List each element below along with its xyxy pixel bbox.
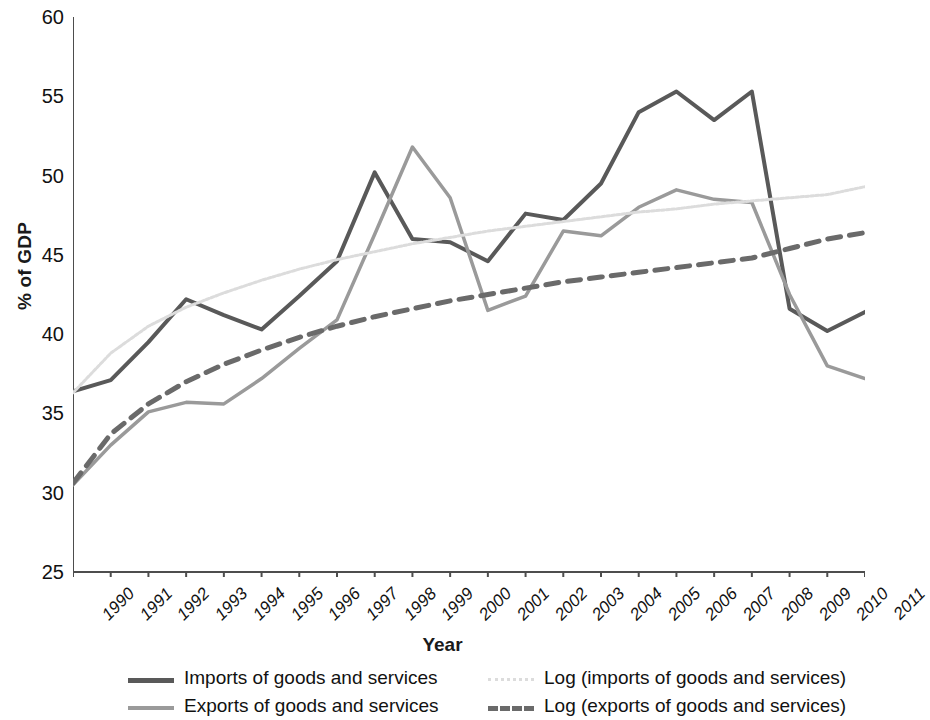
legend-entry-logimports[interactable]: Log (imports of goods and services) xyxy=(488,668,885,688)
series-line-2 xyxy=(73,187,865,393)
x-axis-title: Year xyxy=(0,634,885,656)
x-axis-tick-label: 2004 xyxy=(626,584,667,625)
y-axis-tick-label: 25 xyxy=(20,562,64,582)
x-axis-tick-label: 2008 xyxy=(777,584,818,625)
x-axis-tick-label: 1992 xyxy=(174,584,215,625)
x-axis-tick-label: 1998 xyxy=(400,584,441,625)
legend-label: Imports of goods and services xyxy=(184,668,437,688)
y-axis-tick-labels: 6055504540353025 xyxy=(12,0,64,720)
legend-swatch-imports-icon xyxy=(128,671,174,685)
x-axis-tick-label: 1995 xyxy=(287,584,328,625)
x-axis-tick-label: 2007 xyxy=(739,584,780,625)
y-axis-tick-label: 50 xyxy=(20,166,64,186)
legend-swatch-logimports-icon xyxy=(488,671,534,685)
legend-label: Exports of goods and services xyxy=(184,696,439,716)
x-axis-tick-label: 2009 xyxy=(815,584,856,625)
x-axis-tick-label: 2000 xyxy=(475,584,516,625)
legend-swatch-logexports-icon xyxy=(488,699,534,713)
chart-legend: Imports of goods and servicesLog (import… xyxy=(128,664,885,720)
series-line-0 xyxy=(73,92,865,392)
x-axis-tick-label: 1990 xyxy=(98,584,139,625)
y-axis-tick-label: 40 xyxy=(20,324,64,344)
x-axis-tick-label: 1997 xyxy=(362,584,403,625)
legend-entry-imports[interactable]: Imports of goods and services xyxy=(128,668,488,688)
legend-label: Log (imports of goods and services) xyxy=(544,668,846,688)
x-axis-tick-label: 1999 xyxy=(438,584,479,625)
plot-svg xyxy=(73,17,865,577)
x-axis-tick-label: 2011 xyxy=(890,584,930,624)
series-line-3 xyxy=(73,233,865,484)
x-axis-tick-label: 2003 xyxy=(588,584,629,625)
legend-entry-logexports[interactable]: Log (exports of goods and services) xyxy=(488,696,885,716)
legend-label: Log (exports of goods and services) xyxy=(544,696,846,716)
x-axis-tick-label: 1993 xyxy=(211,584,252,625)
y-axis-tick-label: 45 xyxy=(20,245,64,265)
plot-area xyxy=(73,17,865,572)
y-axis-tick-label: 35 xyxy=(20,403,64,423)
x-axis-tick-label: 2010 xyxy=(852,584,893,625)
x-axis-tick-label: 2001 xyxy=(513,584,554,625)
x-axis-tick-label: 1996 xyxy=(324,584,365,625)
series-line-1 xyxy=(73,147,865,485)
x-axis-tick-label: 2005 xyxy=(664,584,705,625)
x-axis-tick-label: 2006 xyxy=(702,584,743,625)
y-axis-tick-label: 60 xyxy=(20,7,64,27)
x-axis-tick-label: 2002 xyxy=(551,584,592,625)
y-axis-tick-label: 30 xyxy=(20,483,64,503)
x-axis-tick-label: 1994 xyxy=(249,584,290,625)
legend-swatch-exports-icon xyxy=(128,699,174,713)
x-axis-tick-label: 1991 xyxy=(136,584,177,625)
legend-entry-exports[interactable]: Exports of goods and services xyxy=(128,696,488,716)
y-axis-tick-label: 55 xyxy=(20,86,64,106)
